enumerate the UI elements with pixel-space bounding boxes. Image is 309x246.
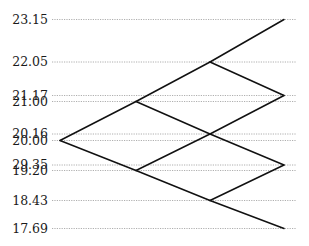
y-tick-label: 23.15	[12, 12, 48, 27]
y-tick-label: 18.43	[12, 193, 48, 208]
tree-edge	[60, 141, 136, 171]
tree-edge	[136, 102, 210, 135]
y-tick-label: 20.00	[12, 133, 48, 148]
binomial-tree-chart: 23.1522.0521.1721.0020.1620.0029.3519.20…	[0, 0, 309, 246]
tree-edges	[60, 20, 284, 229]
tree-edge	[210, 20, 284, 63]
y-tick-label: 19.20	[12, 163, 48, 178]
gridlines	[52, 20, 296, 229]
tree-edge	[210, 134, 284, 165]
y-tick-label: 22.05	[12, 54, 48, 69]
tree-edge	[136, 171, 210, 201]
y-tick-labels: 23.1522.0521.1721.0020.1620.0029.3519.20…	[12, 12, 48, 236]
y-tick-label: 17.69	[12, 221, 48, 236]
tree-edge	[210, 201, 284, 229]
y-tick-label: 21.00	[12, 94, 48, 109]
tree-edge	[210, 62, 284, 96]
tree-edge	[60, 102, 136, 141]
